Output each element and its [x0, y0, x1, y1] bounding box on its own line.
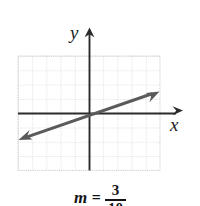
fraction-numerator: 3 — [110, 183, 122, 198]
graph-figure — [0, 0, 200, 206]
y-axis-label: y — [70, 23, 78, 42]
slope-equation: m = 3 10 — [74, 181, 126, 206]
slope-caption: m = 3 10 — [0, 181, 200, 206]
fraction-denominator: 10 — [106, 201, 125, 206]
equals-sign: = — [92, 190, 101, 206]
slope-variable: m — [74, 189, 88, 206]
x-axis-label: x — [170, 115, 178, 134]
slope-fraction: 3 10 — [105, 183, 126, 206]
